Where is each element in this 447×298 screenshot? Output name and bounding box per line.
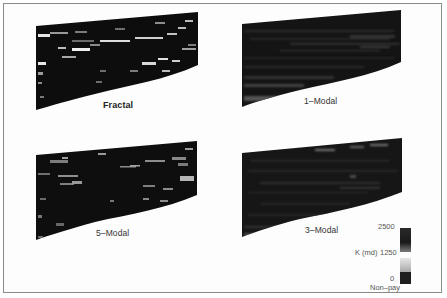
legend-tick-max: 2500 (378, 222, 395, 231)
panel-label-3-modal: 3–Modal (305, 225, 338, 235)
legend-tick-mid: 1250 (380, 248, 397, 257)
panel-label-fractal: Fractal (103, 100, 133, 110)
panel-label-1-modal: 1–Modal (304, 96, 337, 106)
legend-tick-zero: 0 (390, 274, 394, 283)
panel-label-5-modal: 5–Modal (96, 228, 129, 238)
permeability-colorbar (400, 228, 411, 285)
legend-nonpay-label: Non–pay (370, 283, 400, 292)
legend-title: K (md) (355, 248, 378, 257)
